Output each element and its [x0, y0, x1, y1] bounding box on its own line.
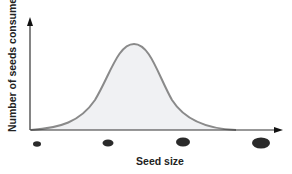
- seed-small-icon: [33, 141, 41, 146]
- distribution-area: [31, 44, 236, 130]
- chart-canvas: [0, 0, 292, 174]
- seed-medium-large-icon: [176, 138, 190, 147]
- seed-medium-small-icon: [103, 140, 114, 147]
- x-axis-label: Seed size: [120, 155, 200, 167]
- y-axis-label: Number of seeds consumed: [6, 12, 18, 132]
- seed-large-icon: [252, 138, 270, 149]
- x-axis-arrow-icon: [274, 127, 283, 133]
- y-axis-arrow-icon: [27, 17, 33, 26]
